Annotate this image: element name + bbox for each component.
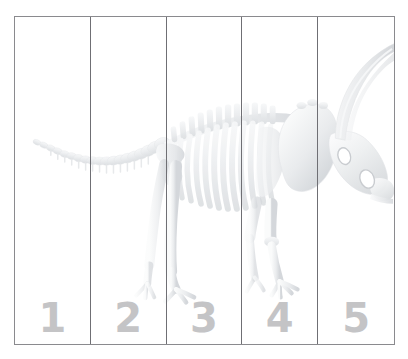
puzzle-board: 1 2 3 4 5	[14, 16, 395, 345]
strip-number-2: 2	[91, 298, 166, 338]
strip-number-4: 4	[242, 298, 317, 338]
puzzle-strip-3[interactable]: 3	[167, 17, 243, 344]
puzzle-strip-row: 1 2 3 4 5	[15, 17, 394, 344]
puzzle-strip-4[interactable]: 4	[242, 17, 318, 344]
puzzle-strip-1[interactable]: 1	[15, 17, 91, 344]
screenshot-root: 1 2 3 4 5	[0, 0, 408, 359]
puzzle-strip-2[interactable]: 2	[91, 17, 167, 344]
strip-number-5: 5	[318, 298, 394, 338]
puzzle-strip-5[interactable]: 5	[318, 17, 394, 344]
strip-number-1: 1	[15, 298, 90, 338]
strip-number-3: 3	[167, 298, 242, 338]
